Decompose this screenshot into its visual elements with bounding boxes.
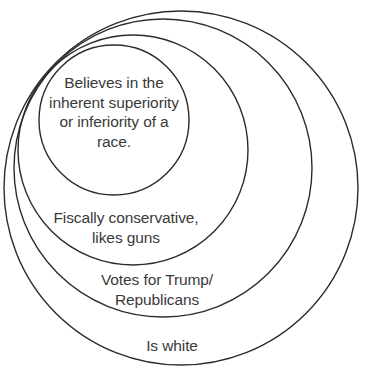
circle-fiscally-conservative-likes-guns	[18, 35, 248, 265]
venn-diagram-canvas	[0, 0, 365, 374]
nested-circles-diagram: Believes in the inherent superiority or …	[0, 0, 365, 374]
circle-believes-racial-superiority	[39, 45, 189, 195]
